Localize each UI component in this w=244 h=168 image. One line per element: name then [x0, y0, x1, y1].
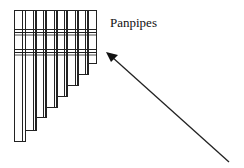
arrow-icon — [106, 52, 229, 162]
panpipes-label: Panpipes — [110, 15, 157, 31]
panpipes-icon — [14, 11, 97, 142]
